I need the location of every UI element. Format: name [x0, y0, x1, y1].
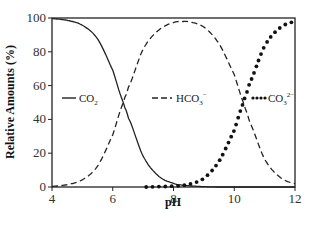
y-tick-label: 80	[33, 44, 46, 59]
co3-data-point	[214, 164, 218, 168]
co3-data-point	[183, 183, 187, 187]
co3-data-point	[243, 97, 247, 101]
y-tick-label: 20	[33, 145, 46, 160]
co3-data-point	[218, 158, 222, 162]
co3-data-point	[232, 129, 236, 133]
co3-data-point	[245, 90, 249, 94]
co3-data-point	[238, 109, 242, 113]
co3-data-point	[229, 135, 233, 139]
y-tick-label: 0	[40, 179, 47, 194]
co3-data-point	[250, 77, 254, 81]
legend-co3: CO32−	[251, 91, 294, 107]
co3-data-point	[241, 103, 245, 107]
co3-data-point	[234, 123, 238, 127]
x-tick-label: 10	[228, 191, 241, 206]
co3-data-point	[170, 184, 174, 188]
co3-data-point	[227, 141, 231, 145]
co3-data-point	[224, 147, 228, 151]
co3-data-point	[278, 26, 282, 30]
co3-data-point	[257, 59, 261, 63]
x-tick-label: 4	[49, 191, 56, 206]
co3-data-point	[221, 153, 225, 157]
legend-co2: CO2	[62, 92, 98, 107]
co3-data-point	[252, 71, 256, 75]
co3-data-point	[206, 173, 210, 177]
co3-data-point	[290, 20, 294, 24]
co3-data-point	[210, 169, 214, 173]
co3-data-point	[163, 185, 167, 189]
co3-data-point	[201, 177, 205, 181]
co3-data-point	[269, 35, 273, 39]
co3-data-point	[195, 180, 199, 184]
y-axis-ticks: 020406080100	[27, 10, 53, 194]
legend-label-hco3: HCO3−	[176, 91, 207, 107]
co3-data-point	[236, 116, 240, 120]
co3-data-point	[255, 64, 259, 68]
co3-data-point	[176, 184, 180, 188]
co3-data-point	[189, 182, 193, 186]
co3-data-point	[144, 185, 148, 189]
y-tick-label: 100	[27, 10, 47, 25]
speciation-chart: 020406080100 4681012 CO2 HCO3− CO32− pH …	[0, 0, 316, 231]
y-tick-label: 60	[33, 78, 46, 93]
co3-data-point	[157, 185, 161, 189]
co3-data-point	[265, 40, 269, 44]
y-tick-label: 40	[33, 111, 46, 126]
legend-label-co2: CO2	[79, 92, 98, 107]
legend-dotted-line-icon	[251, 96, 266, 99]
x-axis-title: pH	[165, 195, 182, 209]
co3-data-point	[151, 185, 155, 189]
y-axis-title: Relative Amounts (%)	[3, 45, 17, 159]
co3-data-point	[283, 23, 287, 27]
co3-data-point	[247, 83, 251, 87]
co3-data-point	[262, 46, 266, 50]
x-tick-label: 6	[110, 191, 117, 206]
co3-data-point	[259, 52, 263, 56]
legend-label-co3: CO32−	[268, 91, 294, 107]
x-tick-label: 12	[289, 191, 302, 206]
co3-data-point	[273, 30, 277, 34]
legend-hco3: HCO3−	[152, 91, 207, 107]
